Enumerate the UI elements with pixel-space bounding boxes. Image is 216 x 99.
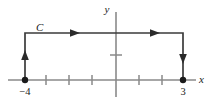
curve-label-c: C — [36, 21, 44, 33]
figure-container: C y x −4 3 — [0, 0, 216, 99]
y-axis-label: y — [104, 3, 110, 15]
arrow-right-first-icon — [70, 29, 80, 37]
path-figure: C y x −4 3 — [0, 0, 216, 99]
endpoint-dot-start — [22, 77, 28, 83]
endpoint-dot-end — [180, 77, 186, 83]
curve-c-path — [25, 33, 183, 80]
arrow-up-left-icon — [21, 50, 29, 60]
arrow-down-right-icon — [179, 54, 187, 64]
x-tick-label-3: 3 — [180, 86, 185, 97]
x-axis-label: x — [198, 73, 204, 85]
curve-c-group — [21, 29, 187, 80]
arrow-right-second-icon — [150, 29, 160, 37]
x-tick-label-minus4: −4 — [19, 86, 31, 97]
